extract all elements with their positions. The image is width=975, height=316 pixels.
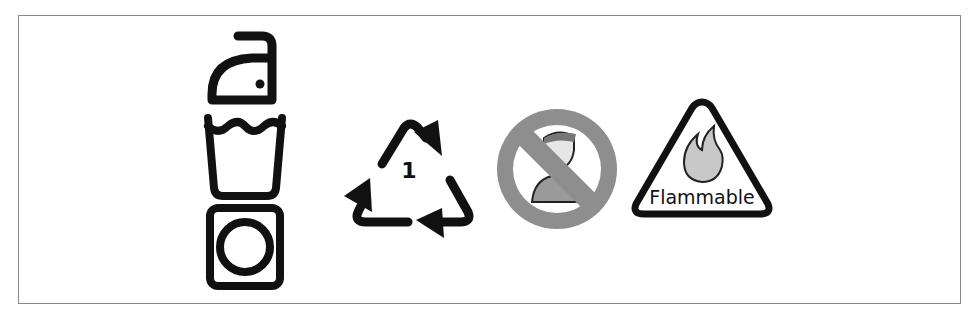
flammable-label: Flammable bbox=[649, 186, 755, 208]
wash-tub-icon bbox=[208, 118, 282, 196]
care-label-stack bbox=[196, 28, 296, 292]
iron-icon bbox=[212, 36, 272, 100]
recycling-symbol: 1 bbox=[338, 108, 478, 238]
figure-frame bbox=[18, 15, 961, 304]
tumble-dry-icon bbox=[210, 208, 280, 286]
recycle-code: 1 bbox=[401, 158, 416, 183]
flammable-warning: Flammable bbox=[628, 94, 776, 222]
prohibition-sign bbox=[494, 106, 620, 232]
